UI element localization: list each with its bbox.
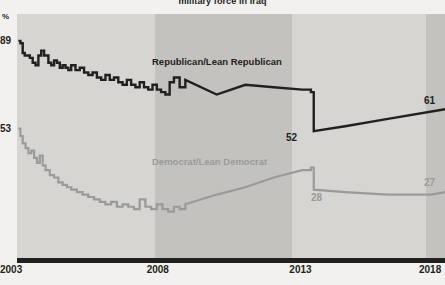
chart-title: military force in Iraq bbox=[0, 0, 445, 6]
democrat-series-label: Democrat/Lean Democrat bbox=[152, 156, 267, 167]
republican-end-value-label: 61 bbox=[424, 95, 435, 106]
x-axis-tick-2018: 2018 bbox=[419, 264, 441, 275]
x-axis-tick-2013: 2013 bbox=[289, 264, 311, 275]
republican-drop-value-label: 52 bbox=[286, 132, 297, 143]
y-axis-label-89: 89 bbox=[0, 35, 11, 46]
y-axis-unit-label: % bbox=[2, 12, 9, 21]
republican-line bbox=[18, 41, 445, 131]
x-axis-tick-2008: 2008 bbox=[147, 264, 169, 275]
series-lines bbox=[17, 14, 445, 258]
democrat-drop-value-label: 28 bbox=[311, 192, 322, 203]
democrat-end-value-label: 27 bbox=[424, 177, 435, 188]
chart-container: military force in Iraq % 8953 2003200820… bbox=[0, 0, 445, 285]
x-axis-bar bbox=[17, 258, 445, 263]
y-axis-label-53: 53 bbox=[0, 123, 11, 134]
plot-area bbox=[17, 14, 445, 258]
x-axis-tick-2003: 2003 bbox=[0, 264, 22, 275]
republican-series-label: Republican/Lean Republican bbox=[152, 56, 282, 67]
democrat-line bbox=[18, 129, 445, 212]
